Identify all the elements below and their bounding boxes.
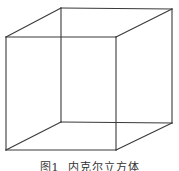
figure-label: 图1 xyxy=(40,161,60,171)
connector-top-left-edge xyxy=(6,8,61,37)
necker-cube-diagram xyxy=(0,0,179,160)
figure-title: 内克尔立方体 xyxy=(68,161,140,171)
figure-caption: 图1内克尔立方体 xyxy=(0,161,179,171)
back-bottom-edge xyxy=(61,122,172,123)
connector-bottom-left-edge xyxy=(6,122,61,150)
connector-top-right-edge xyxy=(116,9,172,37)
back-top-edge xyxy=(61,8,172,9)
connector-bottom-right-edge xyxy=(116,123,172,150)
